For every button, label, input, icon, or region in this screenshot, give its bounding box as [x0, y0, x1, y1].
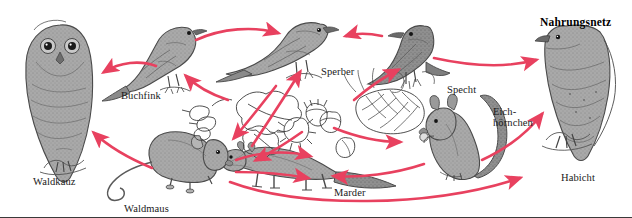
label-specht: Specht [447, 84, 476, 95]
food-web-figure: Nahrungsnetz Waldkauz Buchfink Sperber S… [0, 0, 632, 218]
label-waldkauz: Waldkauz [33, 176, 76, 187]
label-waldmaus: Waldmaus [124, 203, 169, 214]
label-marder: Marder [334, 187, 366, 198]
label-eichhoernchen-line2: hörnchen [493, 117, 533, 128]
label-buchfink: Buchfink [121, 90, 161, 101]
label-eichhoernchen: Eich-hörnchen [493, 106, 533, 128]
food-web-illustration [0, 0, 632, 218]
label-eichhoernchen-line1: Eich- [493, 106, 516, 117]
figure-title: Nahrungsnetz [540, 16, 611, 28]
label-sperber: Sperber [321, 66, 354, 77]
label-habicht: Habicht [561, 172, 595, 183]
